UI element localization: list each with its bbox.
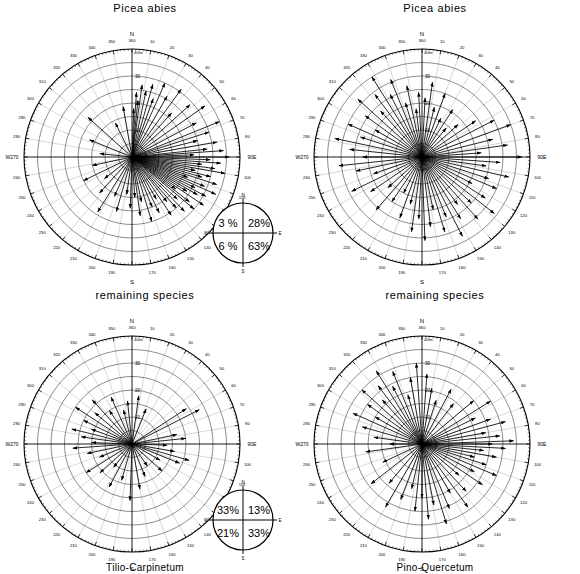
vector-arrow xyxy=(132,410,199,444)
degree-tick-label: 220 xyxy=(53,532,61,537)
degree-tick-label: 220 xyxy=(343,245,351,250)
degree-tick-label: 140 xyxy=(204,245,212,250)
vector-arrow xyxy=(132,396,139,444)
degree-tick-label: 350 xyxy=(108,326,116,331)
vector-arrow xyxy=(422,422,505,444)
degree-tick-label: 300 xyxy=(27,383,35,388)
degree-tick-label: 240 xyxy=(27,500,35,505)
vector-arrow xyxy=(388,157,422,188)
degree-tick-label: 310 xyxy=(329,366,337,371)
degree-tick-label: 70 xyxy=(240,115,245,120)
degree-tick-label: 330 xyxy=(360,53,368,58)
degree-tick-label: 230 xyxy=(329,230,337,235)
radial-unit-label: 40m xyxy=(424,337,433,342)
degree-tick-label: 100 xyxy=(534,462,542,467)
degree-tick-label: 120 xyxy=(520,500,528,505)
quadrant-nw-value: 3 % xyxy=(219,217,238,229)
degree-tick-label: 50 xyxy=(509,366,514,371)
degree-tick-label: 70 xyxy=(240,402,245,407)
quadrant-s-label: S xyxy=(241,269,244,274)
degree-tick-label: 20 xyxy=(460,45,465,50)
degree-tick-label: 170 xyxy=(439,270,447,275)
degree-tick-label: 150 xyxy=(187,256,195,261)
panel-caption: Tilio-Carpinetum xyxy=(0,562,290,573)
degree-tick-label: 110 xyxy=(529,195,536,200)
degree-tick-label: 250 xyxy=(308,482,316,487)
degree-tick-label: 230 xyxy=(39,517,47,522)
panel-bottom-left: remaining species 3601020304050607080100… xyxy=(0,287,290,574)
vector-arrow xyxy=(422,157,472,184)
degree-tick-label: 140 xyxy=(204,532,212,537)
degree-tick-label: 50 xyxy=(219,366,224,371)
polar-plot-bottom-right: 3601020304050607080100110120130140150160… xyxy=(290,287,580,574)
cardinal-label: 90E xyxy=(248,154,258,160)
cardinal-label: N xyxy=(130,318,134,324)
degree-tick-label: 50 xyxy=(219,79,224,84)
degree-tick-label: 60 xyxy=(231,96,236,101)
degree-tick-label: 330 xyxy=(360,340,368,345)
figure-grid: Picea abies 3601020304050607080100110120… xyxy=(0,0,580,574)
degree-tick-label: 30 xyxy=(188,340,193,345)
degree-tick-label: 140 xyxy=(494,532,502,537)
vector-arrow xyxy=(422,145,508,157)
degree-tick-label: 340 xyxy=(378,332,386,337)
degree-tick-label: 360 xyxy=(129,325,137,330)
degree-tick-label: 150 xyxy=(187,543,195,548)
vector-arrow xyxy=(362,390,422,444)
cardinal-label: W270 xyxy=(5,154,18,160)
degree-tick-label: 330 xyxy=(70,53,78,58)
panel-bottom-right: remaining species 3601020304050607080100… xyxy=(290,287,580,574)
degree-tick-label: 170 xyxy=(149,270,157,275)
degree-tick-label: 80 xyxy=(535,421,540,426)
degree-tick-label: 280 xyxy=(13,421,21,426)
cardinal-label: N xyxy=(420,318,424,324)
degree-tick-label: 60 xyxy=(521,96,526,101)
degree-tick-label: 290 xyxy=(308,115,316,120)
degree-tick-label: 210 xyxy=(70,256,78,261)
quadrant-e-label: E xyxy=(278,518,281,523)
degree-tick-label: 290 xyxy=(18,115,26,120)
degree-tick-label: 310 xyxy=(39,366,47,371)
vector-arrow xyxy=(422,120,494,157)
radial-tick-label: 20 xyxy=(135,388,141,393)
degree-tick-label: 30 xyxy=(478,53,483,58)
degree-tick-label: 210 xyxy=(360,543,368,548)
degree-tick-label: 40 xyxy=(205,65,210,70)
quadrant-ne-value: 13% xyxy=(248,504,270,516)
degree-tick-label: 190 xyxy=(108,270,116,275)
degree-tick-label: 280 xyxy=(13,134,21,139)
cardinal-label: 90E xyxy=(248,441,258,447)
degree-tick-label: 200 xyxy=(378,265,386,270)
degree-tick-label: 20 xyxy=(460,332,465,337)
polar-plot-top-right: 3601020304050607080100110120130140150160… xyxy=(290,0,580,287)
degree-tick-label: 350 xyxy=(108,39,116,44)
degree-tick-label: 240 xyxy=(27,213,35,218)
degree-tick-label: 10 xyxy=(150,326,155,331)
degree-tick-label: 40 xyxy=(495,352,500,357)
degree-tick-label: 130 xyxy=(508,517,516,522)
cardinal-label: 90E xyxy=(538,154,548,160)
degree-tick-label: 40 xyxy=(205,352,210,357)
polar-plot-top-left: 3601020304050607080100110120130140150160… xyxy=(0,0,290,287)
degree-tick-label: 150 xyxy=(477,543,485,548)
cardinal-label: N xyxy=(130,31,134,37)
degree-tick-label: 340 xyxy=(88,45,96,50)
degree-tick-label: 20 xyxy=(170,45,175,50)
quadrant-n-label: N xyxy=(241,480,244,485)
quadrant-sw-value: 6 % xyxy=(219,240,238,252)
radial-unit-label: 40m xyxy=(424,50,433,55)
degree-tick-label: 160 xyxy=(459,552,467,557)
degree-tick-label: 140 xyxy=(494,245,502,250)
cardinal-label: N xyxy=(420,31,424,37)
degree-tick-label: 130 xyxy=(508,230,516,235)
degree-tick-label: 240 xyxy=(317,500,325,505)
degree-tick-label: 20 xyxy=(170,332,175,337)
degree-tick-label: 320 xyxy=(53,352,61,357)
degree-tick-label: 260 xyxy=(13,175,21,180)
radial-tick-label: 30 xyxy=(425,74,431,79)
cardinal-label: 90E xyxy=(538,441,548,447)
degree-tick-label: 360 xyxy=(129,38,137,43)
cardinal-label: W270 xyxy=(5,441,18,447)
degree-tick-label: 320 xyxy=(343,352,351,357)
quadrant-nw-value: 33% xyxy=(217,504,239,516)
